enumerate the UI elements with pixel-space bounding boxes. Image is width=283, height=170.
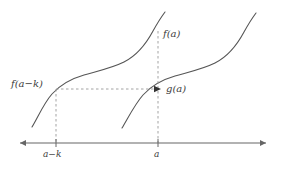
curve-f xyxy=(32,12,165,127)
label-g-a: g(a) xyxy=(166,84,186,94)
curve-g xyxy=(122,13,256,128)
tick-label-a-minus-k: a−k xyxy=(43,150,61,159)
label-f-a-minus-k: f(a−k) xyxy=(11,79,43,89)
label-f-a: f(a) xyxy=(163,29,180,39)
tick-label-a: a xyxy=(154,150,159,159)
function-shift-diagram: f(a−k) f(a) g(a) a−k a xyxy=(0,0,283,170)
